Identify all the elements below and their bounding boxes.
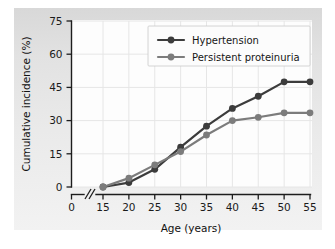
data-point [177,148,184,155]
legend-label: Persistent proteinuria [192,52,300,63]
data-point [307,78,314,85]
x-tick-label: 0 [68,201,75,213]
data-point [307,109,314,116]
y-axis: 01530456075 [49,15,71,193]
x-tick-label: 25 [148,201,161,213]
x-axis-tick-labels: 0152025303540455055 [68,201,317,213]
x-tick-label: 35 [200,201,213,213]
y-tick-label: 75 [49,15,62,27]
data-point [203,132,210,139]
y-tick-label: 15 [49,148,62,160]
x-tick-label: 55 [303,201,316,213]
data-point [255,93,262,100]
chart-legend: HypertensionPersistent proteinuria [148,26,310,66]
data-point [125,175,132,182]
x-axis: 0152025303540455055 [68,189,317,213]
data-point [281,109,288,116]
y-axis-tick-labels: 01530456075 [49,15,62,193]
legend-marker [168,37,175,44]
x-tick-label: 40 [226,201,239,213]
line-chart: 01530456075 0152025303540455055 Hyperten… [0,0,335,249]
x-tick-label: 15 [96,201,109,213]
data-point [151,161,158,168]
y-tick-label: 30 [49,114,62,126]
x-tick-label: 30 [174,201,187,213]
data-point [229,117,236,124]
figure-container: 01530456075 0152025303540455055 Hyperten… [0,0,335,249]
data-point [255,114,262,121]
x-tick-label: 50 [277,201,290,213]
y-tick-label: 45 [49,81,62,93]
data-point [281,78,288,85]
x-tick-label: 20 [122,201,135,213]
x-axis-ticks [72,195,311,200]
legend-label: Hypertension [192,35,259,46]
data-point [203,123,210,130]
x-axis-title: Age (years) [161,222,222,234]
y-axis-title: Cumulative incidence (%) [20,36,32,171]
data-point [100,184,107,191]
y-tick-label: 0 [56,181,63,193]
y-tick-label: 60 [49,48,62,60]
x-tick-label: 45 [252,201,265,213]
y-axis-ticks [67,21,72,187]
legend-marker [168,54,175,61]
data-point [229,105,236,112]
